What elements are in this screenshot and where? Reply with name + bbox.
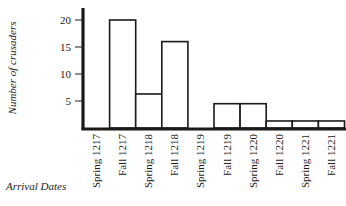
y-tick-label: 15 bbox=[60, 41, 72, 53]
x-tick-label: Fall 1221 bbox=[325, 134, 337, 176]
x-tick-label: Spring 1218 bbox=[142, 134, 154, 189]
y-axis-label-container: Number of crusaders bbox=[2, 8, 22, 128]
bar-fall-1220 bbox=[266, 121, 292, 128]
x-tick-label: Fall 1219 bbox=[221, 134, 233, 176]
x-tick-label: Fall 1218 bbox=[168, 134, 180, 176]
y-tick-label: 10 bbox=[60, 68, 72, 80]
x-tick-label: Spring 1220 bbox=[247, 134, 259, 189]
x-tick-label: Fall 1217 bbox=[116, 134, 128, 176]
bar-fall-1217 bbox=[110, 20, 136, 128]
x-tick-label: Spring 1221 bbox=[299, 134, 311, 188]
x-tick-label: Spring 1217 bbox=[90, 134, 102, 189]
x-axis-label: Arrival Dates bbox=[6, 180, 66, 192]
y-tick-label: 20 bbox=[60, 14, 72, 26]
bar-spring-1218 bbox=[136, 94, 162, 128]
bar-spring-1221 bbox=[292, 121, 318, 128]
y-tick-label: 5 bbox=[66, 95, 72, 107]
x-tick-label: Spring 1219 bbox=[194, 134, 206, 189]
bar-fall-1218 bbox=[162, 42, 188, 128]
bar-fall-1219 bbox=[214, 104, 240, 128]
x-tick-label: Fall 1220 bbox=[273, 134, 285, 176]
histogram-chart: Spring 1217Fall 1217Spring 1218Fall 1218… bbox=[0, 0, 346, 206]
y-axis-label: Number of crusaders bbox=[6, 22, 18, 115]
bar-fall-1221 bbox=[318, 121, 344, 128]
bar-spring-1220 bbox=[240, 104, 266, 128]
